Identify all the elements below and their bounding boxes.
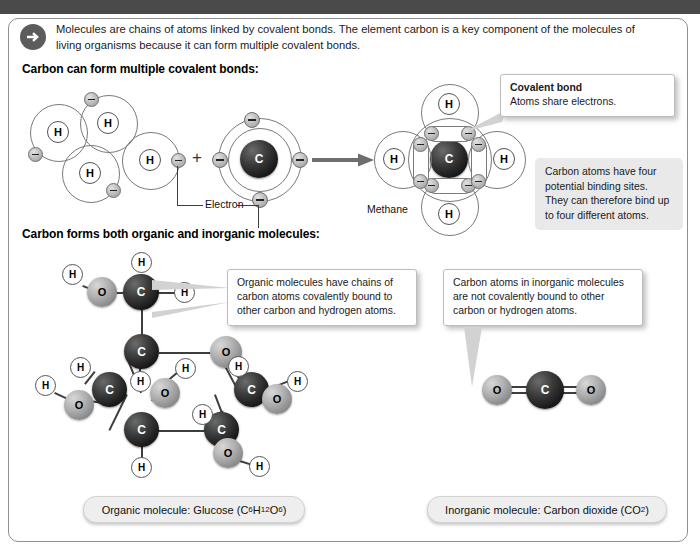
content-frame — [8, 18, 688, 542]
section-heading-1: Carbon can form multiple covalent bonds: — [22, 62, 259, 76]
section-heading-2: Carbon forms both organic and inorganic … — [22, 227, 320, 241]
intro-text: Molecules are chains of atoms linked by … — [56, 22, 656, 53]
arrow-right-circle-icon — [20, 24, 46, 50]
top-bar — [0, 0, 700, 14]
